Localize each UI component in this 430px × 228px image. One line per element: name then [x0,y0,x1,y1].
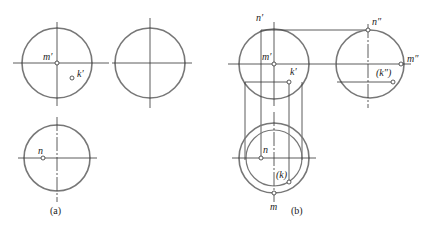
b-point-m [272,191,276,195]
b-label-m: m [270,201,277,212]
projection-diagram: m′ k′ n (a) n′ m′ k′ [0,0,430,228]
b-point-k-dprime [391,80,395,84]
b-point-m-prime [272,62,276,66]
b-label-m-prime: m′ [262,51,272,62]
b-label-k-prime: k′ [290,66,297,77]
b-point-k-prime [287,80,291,84]
b-label-n-prime: n′ [256,12,264,23]
caption-b: (b) [291,205,303,217]
a-point-m-prime [55,61,59,65]
b-label-m-dprime: m″ [407,53,419,64]
caption-a: (a) [50,205,61,217]
b-point-n-dprime [366,28,370,32]
a-point-n [41,156,45,160]
b-point-m-dprime [399,62,403,66]
a-label-m-prime: m′ [43,51,53,62]
a-label-n: n [38,145,43,156]
a-label-k-prime: k′ [77,68,84,79]
panel-a: m′ k′ n (a) [13,18,192,217]
panel-b: n′ m′ k′ n″ m″ (k″) n (k) m (b) [228,12,419,217]
b-point-k [287,180,291,184]
b-label-n-dprime: n″ [372,16,382,27]
a-point-k-prime [70,76,74,80]
b-label-n: n [263,144,268,155]
b-label-k: (k) [276,169,288,181]
b-point-n [259,156,263,160]
b-label-k-dprime: (k″) [376,67,392,79]
